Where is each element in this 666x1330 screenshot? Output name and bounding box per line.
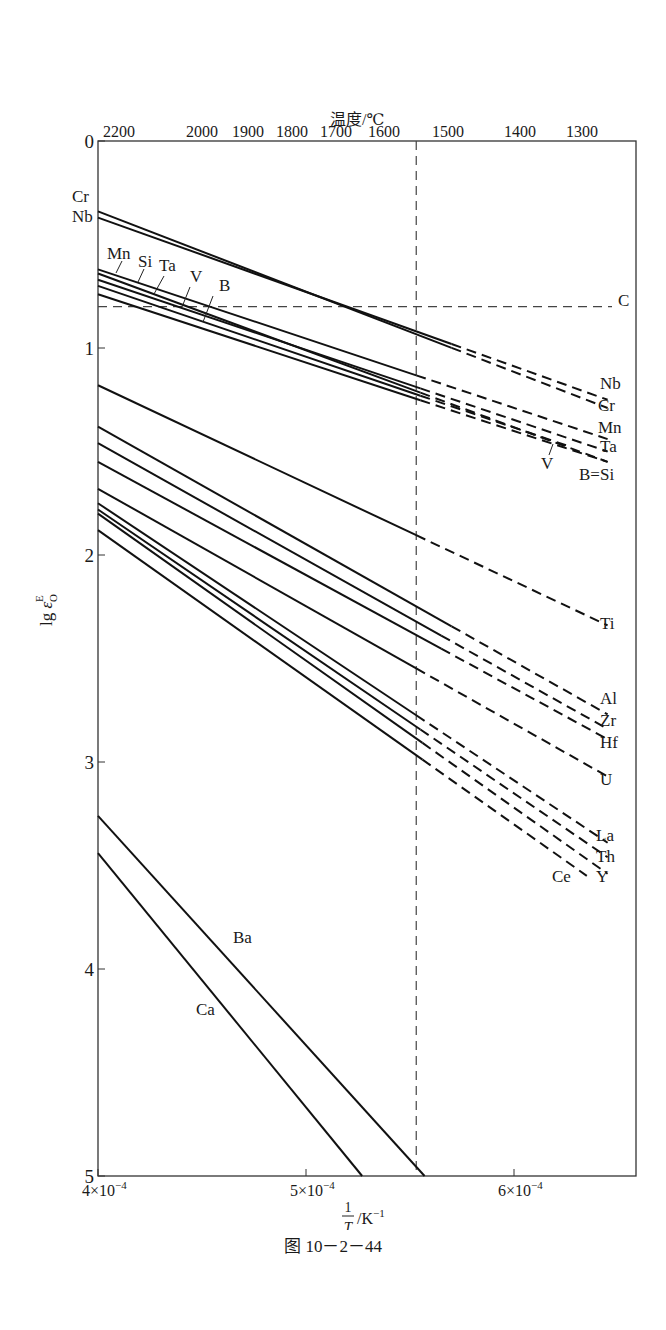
y-tick-label: 1 <box>85 338 95 359</box>
y-tick-label: 4 <box>85 959 95 980</box>
temperature-tick-label: 1400 <box>504 123 536 140</box>
label-hf: Hf <box>600 733 618 752</box>
label-b-si: B=Si <box>579 465 614 484</box>
reference-lines <box>98 141 612 1176</box>
label-ce: Ce <box>552 867 571 886</box>
label-mn: Mn <box>107 244 131 263</box>
series-th <box>98 509 608 857</box>
label-cr: Cr <box>72 187 89 206</box>
temperature-tick-label: 2200 <box>103 123 135 140</box>
label-v: V <box>190 267 203 286</box>
temperature-tick-label: 1500 <box>432 123 464 140</box>
label-v: V <box>541 454 554 473</box>
series-ca <box>98 853 362 1176</box>
label-nb: Nb <box>72 207 93 226</box>
temperature-tick-label: 1900 <box>232 123 264 140</box>
series-lines <box>98 211 608 1176</box>
series-ti <box>98 385 608 625</box>
label-zr: Zr <box>600 711 616 730</box>
label-c: C <box>618 291 629 310</box>
svg-text:/K−1: /K−1 <box>357 1207 385 1227</box>
x-tick-label: 6×10−4 <box>498 1179 543 1199</box>
label-th: Th <box>596 847 615 866</box>
label-y: Y <box>596 867 608 886</box>
chart: 0123454×10−45×10−46×10−42200200019001800… <box>0 0 666 1230</box>
series-hf <box>98 462 608 739</box>
label-ta: Ta <box>600 437 617 456</box>
axis-labels: 温度/℃1T/K−1lg εOE <box>33 111 385 1230</box>
label-al: Al <box>600 689 617 708</box>
label-ba: Ba <box>233 928 252 947</box>
y-tick-label: 3 <box>85 752 95 773</box>
label-ca: Ca <box>196 1000 215 1019</box>
svg-text:1: 1 <box>345 1200 352 1215</box>
label-cr: Cr <box>598 396 615 415</box>
x-axis-label: 1T/K−1 <box>342 1200 385 1230</box>
series-la <box>98 503 608 842</box>
label-ta: Ta <box>159 256 176 275</box>
label-ti: Ti <box>600 614 615 633</box>
temperature-tick-label: 1800 <box>276 123 308 140</box>
svg-text:lg εOE: lg εOE <box>33 594 59 626</box>
series-zr <box>98 443 608 729</box>
series-labels: CrNbMnSiTaVBCNbCrMnTaVB=SiTiAlZrHfULaThC… <box>72 187 629 1019</box>
series-ce <box>98 530 587 876</box>
top-axis-label: 温度/℃ <box>330 111 384 128</box>
label-b: B <box>219 276 230 295</box>
label-nb: Nb <box>600 374 621 393</box>
temperature-tick-label: 2000 <box>186 123 218 140</box>
y-axis-label: lg εOE <box>33 594 59 626</box>
y-tick-label: 0 <box>85 131 95 152</box>
series-ta <box>98 280 608 452</box>
label-si: Si <box>138 252 152 271</box>
series-y <box>98 514 608 874</box>
label-mn: Mn <box>598 418 622 437</box>
series-mn <box>98 269 608 439</box>
x-tick-label: 4×10−4 <box>82 1179 127 1199</box>
series-u <box>98 489 608 777</box>
y-tick-label: 2 <box>85 545 95 566</box>
series-al <box>98 427 608 715</box>
label-u: U <box>600 770 612 789</box>
figure-caption: 图 10－2－44 <box>0 1232 666 1257</box>
x-tick-label: 5×10−4 <box>290 1179 335 1199</box>
series-ba <box>98 816 425 1176</box>
label-la: La <box>596 826 614 845</box>
svg-text:T: T <box>344 1219 354 1230</box>
temperature-tick-label: 1300 <box>566 123 598 140</box>
